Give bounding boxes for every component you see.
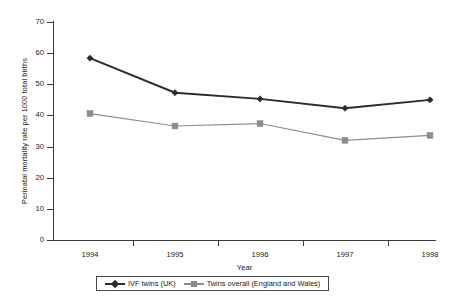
x-axis-title: Year (53, 263, 436, 272)
legend-label: Twins overall (England and Wales) (207, 279, 321, 288)
data-point-square (87, 111, 93, 117)
data-point-diamond (257, 96, 263, 102)
series-plot (0, 0, 462, 305)
line-chart: Perinatal mortality rate per 1000 total … (0, 0, 462, 305)
data-point-square (342, 137, 348, 143)
data-point-diamond (87, 55, 93, 61)
chart-legend: IVF twins (UK)Twins overall (England and… (96, 276, 329, 291)
series-1 (87, 55, 433, 111)
series-2 (87, 111, 433, 144)
data-point-square (427, 132, 433, 138)
data-point-square (172, 123, 178, 129)
legend-diamond-icon (105, 279, 125, 288)
data-point-diamond (172, 90, 178, 96)
legend-entry: Twins overall (England and Wales) (184, 279, 321, 288)
data-point-diamond (427, 97, 433, 103)
series-line (90, 114, 430, 141)
data-point-diamond (342, 105, 348, 111)
legend-square-icon (184, 279, 204, 288)
legend-entry: IVF twins (UK) (105, 279, 176, 288)
data-point-square (257, 121, 263, 127)
legend-label: IVF twins (UK) (128, 279, 176, 288)
